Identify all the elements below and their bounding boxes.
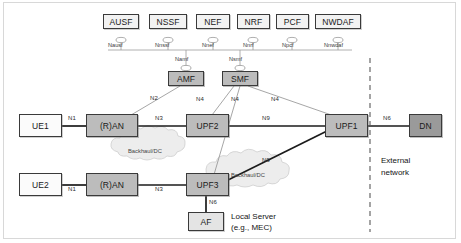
edge-label-n3-lower: N3 [155, 186, 163, 192]
node-label-af: AF [200, 217, 211, 227]
edge-label-n2: N2 [150, 95, 158, 101]
nf-label-ausf: AUSF [109, 17, 132, 27]
nf-box-nwdaf[interactable]: NWDAF [315, 14, 361, 29]
node-label-upf3: UPF3 [196, 180, 218, 190]
node-label-dn: DN [419, 121, 431, 131]
cloud-label-backhaul-upper: Backhaul/DC [128, 148, 162, 154]
sbi-label-nnwdaf: Nnwdaf [324, 42, 343, 48]
sbi-taps [116, 37, 343, 70]
node-amf[interactable]: AMF [168, 71, 204, 86]
network-architecture-diagram: AUSF NSSF NEF NRF PCF NWDAF Nausf Nnssf … [0, 0, 461, 243]
edge-label-n6-dn: N6 [383, 115, 391, 121]
sbi-label-namf: Namf [175, 56, 188, 62]
node-dn[interactable]: DN [409, 114, 442, 137]
edge-label-n3-upper: N3 [155, 115, 163, 121]
sbi-label-nsmf: Nsmf [229, 56, 242, 62]
nf-box-nrf[interactable]: NRF [237, 14, 270, 29]
edge-label-n4-upf1: N4 [271, 96, 279, 102]
node-ran-upper[interactable]: (R)AN [86, 114, 138, 137]
nf-label-pcf: PCF [284, 17, 301, 27]
node-label-ue1: UE1 [32, 121, 49, 131]
node-label-ran-lower: (R)AN [100, 180, 124, 190]
annotation-local-server-line2: (e.g., MEC) [231, 222, 272, 233]
node-label-upf1: UPF1 [335, 121, 357, 131]
node-ran-lower[interactable]: (R)AN [86, 173, 138, 196]
connection-layer [0, 0, 461, 243]
annotation-external-network-line1: External [381, 155, 410, 166]
annotation-external-network-line2: network [381, 167, 409, 178]
nf-label-nrf: NRF [245, 17, 263, 27]
annotation-local-server-line1: Local Server [231, 211, 276, 222]
sbi-label-nausf: Nausf [108, 42, 123, 48]
cloud-label-backhaul-lower: Backhaul/DC [231, 172, 265, 178]
nf-box-nef[interactable]: NEF [196, 14, 230, 29]
node-label-ue2: UE2 [32, 180, 49, 190]
node-ue1[interactable]: UE1 [19, 114, 62, 137]
node-af[interactable]: AF [188, 212, 224, 231]
nf-label-nwdaf: NWDAF [322, 17, 354, 27]
node-label-ran-upper: (R)AN [100, 121, 124, 131]
nf-label-nef: NEF [204, 17, 221, 27]
node-ue2[interactable]: UE2 [19, 173, 62, 196]
node-upf1[interactable]: UPF1 [325, 114, 368, 137]
sbi-bus [108, 42, 352, 66]
node-label-upf2: UPF2 [196, 121, 218, 131]
nf-box-ausf[interactable]: AUSF [103, 14, 139, 29]
nf-box-nssf[interactable]: NSSF [149, 14, 187, 29]
node-label-smf: SMF [231, 74, 249, 84]
sbi-label-nnrf: Nnrf [243, 42, 254, 48]
edge-label-n1-ue2: N1 [68, 186, 76, 192]
nf-box-pcf[interactable]: PCF [276, 14, 309, 29]
edge-label-n1-ue1: N1 [68, 115, 76, 121]
node-smf[interactable]: SMF [222, 71, 258, 86]
edge-label-n4-upf3: N4 [231, 96, 239, 102]
nf-label-nssf: NSSF [156, 17, 179, 27]
edge-label-n9-upf3-upf1: N9 [262, 157, 270, 163]
edge-label-n4-upf2: N4 [196, 96, 204, 102]
node-label-amf: AMF [177, 74, 195, 84]
sbi-label-nnssf: Nnssf [155, 42, 169, 48]
edge-label-n6-af: N6 [209, 199, 217, 205]
node-upf3[interactable]: UPF3 [186, 173, 229, 196]
sbi-label-npcf: Npcf [282, 42, 294, 48]
node-upf2[interactable]: UPF2 [186, 114, 229, 137]
edge-label-n9-upf2-upf1: N9 [262, 115, 270, 121]
sbi-label-nnef: Nnef [202, 42, 214, 48]
